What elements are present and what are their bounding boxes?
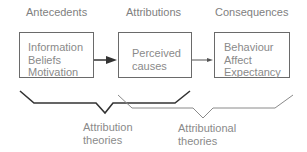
bracket-attributional-theories [118, 95, 293, 118]
label-attributional-theories: Attributional theories [178, 122, 236, 148]
label-theories-1: theories [83, 134, 133, 147]
label-attribution: Attribution [83, 121, 133, 134]
label-attributional: Attributional [178, 122, 236, 135]
bracket-attribution-theories [20, 91, 190, 113]
connector-lines [0, 0, 307, 152]
arrow-antecedents-to-attributions [94, 56, 117, 64]
label-theories-2: theories [178, 135, 236, 148]
arrow-attributions-to-consequences [192, 58, 213, 62]
label-attribution-theories: Attribution theories [83, 121, 133, 147]
